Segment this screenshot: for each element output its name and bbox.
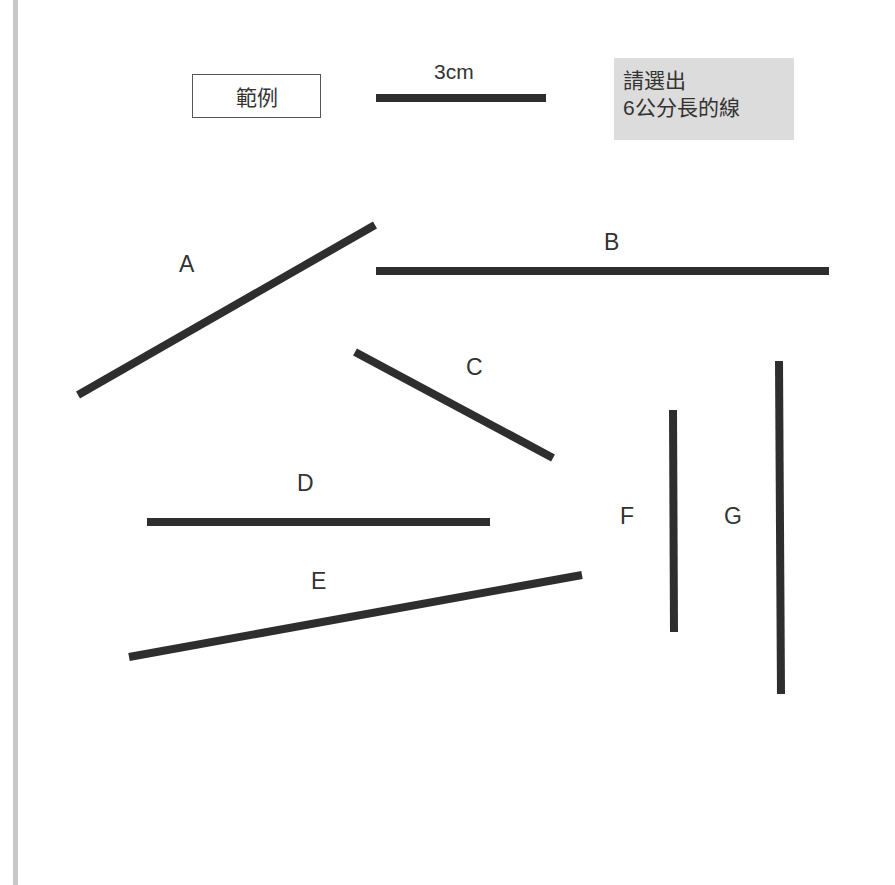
line-label-B: B xyxy=(604,229,619,256)
line-A[interactable] xyxy=(78,225,375,395)
line-label-E: E xyxy=(311,568,326,595)
line-G[interactable] xyxy=(779,361,781,694)
line-F[interactable] xyxy=(673,410,674,632)
line-C[interactable] xyxy=(355,352,553,458)
line-label-C: C xyxy=(466,354,483,381)
line-E[interactable] xyxy=(129,575,582,657)
line-label-D: D xyxy=(297,470,314,497)
line-label-G: G xyxy=(724,503,742,530)
line-label-F: F xyxy=(620,503,634,530)
line-label-A: A xyxy=(179,251,194,278)
lines-canvas xyxy=(0,0,895,885)
